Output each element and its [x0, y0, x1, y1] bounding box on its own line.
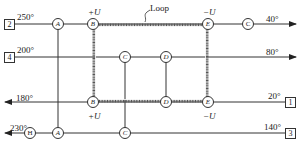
loop-path — [94, 25, 207, 101]
node-b-stream-2: B — [87, 18, 99, 30]
node-h-heater-stream-3: H — [24, 127, 36, 139]
loop-plus-u-bottom: +U — [88, 112, 101, 121]
stream-4-box: 4 — [4, 52, 15, 63]
node-a-stream-3: A — [52, 127, 64, 139]
stream-1-box: 1 — [285, 97, 296, 108]
node-b-stream-1: B — [87, 96, 99, 108]
stream-2-inlet-temp: 250° — [17, 13, 34, 22]
stream-4-outlet-temp: 80° — [266, 48, 279, 57]
loop-path-inner — [96, 27, 206, 100]
heat-exchanger-network-diagram — [0, 0, 304, 146]
node-c-stream-3: C — [119, 127, 131, 139]
node-e-stream-2: E — [202, 18, 214, 30]
stream-3-inlet-temp: 140° — [264, 123, 281, 132]
loop-label: Loop — [150, 4, 169, 13]
node-d-stream-1: D — [160, 96, 172, 108]
stream-1-outlet-temp: 180° — [16, 94, 33, 103]
node-a-stream-2: A — [52, 18, 64, 30]
stream-3-box: 3 — [285, 128, 296, 139]
loop-minus-u-bottom: −U — [203, 112, 216, 121]
loop-plus-u-top: +U — [88, 8, 101, 17]
stream-2-outlet-temp: 40° — [266, 15, 279, 24]
loop-minus-u-top: −U — [203, 8, 216, 17]
stream-1-inlet-temp: 20° — [268, 92, 281, 101]
node-e-stream-1: E — [202, 96, 214, 108]
node-d-stream-4: D — [160, 51, 172, 63]
stream-2-box: 2 — [4, 19, 15, 30]
stream-4-inlet-temp: 200° — [17, 46, 34, 55]
node-c-cooler-stream-2: C — [242, 18, 254, 30]
node-c-stream-4: C — [119, 51, 131, 63]
